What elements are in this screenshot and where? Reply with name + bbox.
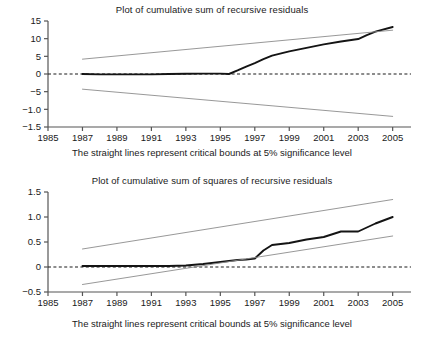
y-tick-label: 5: [36, 51, 41, 62]
y-tick-label: −1.0: [22, 104, 41, 115]
plot-area-cusumsq: 1.51.00.50−0.519851987198919911993199519…: [0, 171, 424, 317]
y-tick-label: 15: [30, 15, 41, 26]
y-tick-label: −1.5: [22, 121, 41, 132]
x-tick-label: 1999: [279, 297, 300, 308]
x-tick-label: 1989: [106, 297, 127, 308]
x-tick-label: 1989: [106, 132, 127, 143]
x-tick-label: 1993: [175, 297, 196, 308]
x-tick-label: 1987: [72, 297, 93, 308]
x-tick-label: 1997: [244, 297, 265, 308]
x-tick-label: 1995: [210, 132, 231, 143]
plot-area-cusum: 151050−5−1.0−1.5198519871989199119931995…: [0, 0, 424, 146]
y-tick-label: 0.5: [28, 236, 41, 247]
x-tick-label: 2001: [313, 297, 334, 308]
x-tick-label: 2003: [348, 297, 369, 308]
x-tick-label: 2005: [382, 132, 403, 143]
x-tick-label: 2001: [313, 132, 334, 143]
x-tick-label: 1985: [37, 297, 58, 308]
x-tick-label: 1999: [279, 132, 300, 143]
y-tick-label: 1.0: [28, 211, 41, 222]
y-tick-label: 0: [36, 261, 41, 272]
x-tick-label: 1987: [72, 132, 93, 143]
y-tick-label: 0: [36, 68, 41, 79]
y-tick-label: −0.5: [22, 286, 41, 297]
chart-caption-cusum: The straight lines represent critical bo…: [0, 147, 424, 158]
x-tick-label: 1991: [141, 297, 162, 308]
cusum-stability-figure: Plot of cumulative sum of recursive resi…: [0, 0, 424, 341]
x-tick-label: 2003: [348, 132, 369, 143]
x-tick-label: 2005: [382, 297, 403, 308]
axes-cusum: 151050−5−1.0−1.5198519871989199119931995…: [22, 15, 411, 143]
y-tick-label: 10: [30, 33, 41, 44]
x-tick-label: 1993: [175, 132, 196, 143]
axes-cusumsq: 1.51.00.50−0.519851987198919911993199519…: [22, 186, 411, 308]
chart-caption-cusumsq: The straight lines represent critical bo…: [0, 318, 424, 329]
chart-panel-cusum: Plot of cumulative sum of recursive resi…: [0, 0, 424, 170]
critical-bound-line: [82, 30, 392, 59]
x-tick-label: 1985: [37, 132, 58, 143]
y-tick-label: 1.5: [28, 186, 41, 197]
critical-bound-line: [82, 236, 392, 285]
y-tick-label: −5: [30, 86, 41, 97]
critical-bound-line: [82, 89, 392, 116]
chart-panel-cusumsq: Plot of cumulative sum of squares of rec…: [0, 171, 424, 341]
x-tick-label: 1997: [244, 132, 265, 143]
x-tick-label: 1995: [210, 297, 231, 308]
critical-bound-line: [82, 200, 392, 250]
x-tick-label: 1991: [141, 132, 162, 143]
